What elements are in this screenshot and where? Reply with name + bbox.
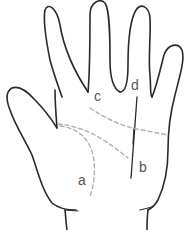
thumb-crease: [55, 90, 57, 128]
palm-diagram: [0, 0, 188, 230]
thumb-outline: [7, 87, 76, 210]
dashed-line-upper: [90, 108, 168, 135]
index-finger-outline: [44, 6, 88, 97]
label-b: b: [139, 160, 147, 174]
middle-finger-outline: [88, 1, 120, 92]
wrist-left: [65, 210, 67, 230]
label-d: d: [131, 78, 139, 92]
label-c: c: [94, 89, 101, 103]
wrist-right: [147, 210, 148, 230]
label-a: a: [78, 173, 86, 187]
pinky-finger-outline: [148, 45, 183, 210]
